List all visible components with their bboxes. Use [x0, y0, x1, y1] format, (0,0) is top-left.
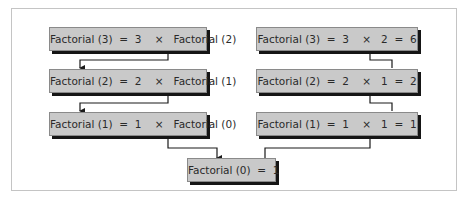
base-case-factorial-0: Factorial (0) = 1 — [187, 158, 276, 182]
call-factorial-1: Factorial (1) = 1 × Factorial (0) — [49, 112, 207, 136]
result-factorial-1: Factorial (1) = 1 × 1 = 1 — [256, 112, 418, 136]
call-factorial-2: Factorial (2) = 2 × Factorial (1) — [49, 69, 207, 93]
arrow-0-to-1 — [265, 136, 370, 158]
call-factorial-3: Factorial (3) = 3 × Factorial (2) — [49, 27, 207, 51]
result-factorial-2: Factorial (2) = 2 × 1 = 2 — [256, 69, 418, 93]
arrow-2-to-3 — [370, 51, 392, 68]
arrow-3-to-2 — [80, 51, 168, 68]
arrow-1-to-2 — [370, 93, 392, 111]
arrow-1-to-0 — [168, 136, 217, 158]
result-factorial-3: Factorial (3) = 3 × 2 = 6 — [256, 27, 418, 51]
arrow-2-to-1 — [80, 93, 168, 111]
